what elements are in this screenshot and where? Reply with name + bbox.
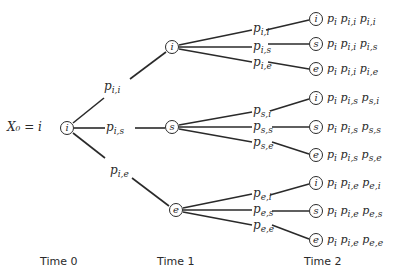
node-t2-7: i: [309, 176, 323, 190]
edge-label-2-8: pe,s: [253, 203, 274, 218]
leaf-prob-6: pi pi,s ps,e: [327, 149, 382, 162]
node-t1-s: s: [165, 120, 179, 134]
root-label: X₀ = i: [7, 120, 42, 134]
edge-label-i-e: pi,e: [110, 164, 129, 179]
leaf-prob-2: pi pi,i pi,s: [327, 38, 377, 51]
edge-label-2-5: ps,s: [253, 120, 273, 135]
node-t2-6: e: [309, 148, 323, 162]
edge-label-2-3: pi,e: [253, 56, 272, 71]
node-t2-2: s: [309, 37, 323, 51]
node-t2-5: s: [309, 120, 323, 134]
leaf-prob-7: pi pi,e pe,i: [327, 177, 381, 190]
node-t2-9: e: [309, 233, 323, 247]
node-t1-i: i: [165, 40, 179, 54]
time-label-0: Time 0: [40, 255, 77, 268]
edge-label-2-2: pi,s: [253, 40, 271, 55]
leaf-prob-9: pi pi,e pe,e: [327, 234, 383, 247]
node-t1-e: e: [169, 203, 183, 217]
leaf-prob-4: pi pi,s ps,i: [327, 92, 379, 105]
edge-label-i-i: pi,i: [104, 80, 120, 95]
node-t2-1: i: [309, 12, 323, 26]
edge-label-2-6: ps,e: [253, 136, 274, 151]
leaf-prob-1: pi pi,i pi,i: [327, 13, 376, 26]
root-node: i: [60, 121, 74, 135]
leaf-prob-3: pi pi,i pi,e: [327, 63, 378, 76]
time-label-1: Time 1: [157, 255, 194, 268]
time-label-2: Time 2: [304, 255, 341, 268]
edge-label-2-7: pe,i: [253, 187, 272, 202]
edge-label-2-1: pi,i: [253, 22, 269, 37]
edge-label-i-s: pi,s: [106, 121, 124, 136]
node-t2-4: i: [309, 91, 323, 105]
leaf-prob-5: pi pi,s ps,s: [327, 121, 381, 134]
edge-label-2-9: pe,e: [253, 219, 274, 234]
node-t2-3: e: [309, 62, 323, 76]
node-t2-8: s: [309, 204, 323, 218]
leaf-prob-8: pi pi,e pe,s: [327, 205, 382, 218]
edge-label-2-4: ps,i: [253, 104, 271, 119]
